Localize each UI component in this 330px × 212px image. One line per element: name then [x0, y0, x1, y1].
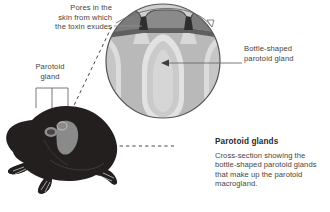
bottle-label-line2: parotoid gland [244, 54, 328, 64]
toad-pupil [47, 129, 55, 135]
figure-caption: Parotoid glands Cross-section showing th… [215, 137, 327, 189]
bottle-shaped-gland-label: Bottle-shaped parotoid gland [244, 44, 328, 63]
pores-label-line1: Pores in the [8, 3, 112, 13]
pores-label: Pores in the skin from which the toxin e… [8, 3, 112, 32]
caption-body: Cross-section showing the bottle-shaped … [215, 151, 327, 189]
caption-line3: that make up the parotoid [215, 170, 302, 179]
gland-center-core [153, 50, 173, 112]
caption-heading: Parotoid glands [215, 137, 327, 147]
parotoid-label-line2: gland [14, 72, 86, 82]
skin-lobe-center [143, 10, 189, 28]
parotoid-label-line1: Parotoid [14, 62, 86, 72]
parotoid-gland-figure: Pores in the skin from which the toxin e… [0, 0, 330, 212]
pores-label-line3: the toxin exudes [8, 22, 112, 32]
parotoid-gland-label: Parotoid gland [14, 62, 86, 81]
gland-left-inner [91, 43, 116, 113]
gland-right-inner [209, 43, 234, 113]
caption-line2: bottle-shaped parotoid glands [215, 160, 317, 169]
caption-line4: macrogland. [215, 179, 257, 188]
caption-line1: Cross-section showing the [215, 151, 305, 160]
pores-label-line2: skin from which [8, 13, 112, 23]
toad-illustration [6, 106, 117, 194]
bottle-label-line1: Bottle-shaped [244, 44, 328, 54]
